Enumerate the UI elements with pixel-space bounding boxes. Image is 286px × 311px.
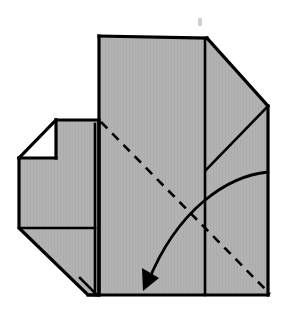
stray-speck-mark: [198, 18, 202, 27]
origami-figure-svg: [0, 0, 286, 311]
origami-diagram: [0, 0, 286, 311]
body-top-edge: [99, 36, 207, 38]
